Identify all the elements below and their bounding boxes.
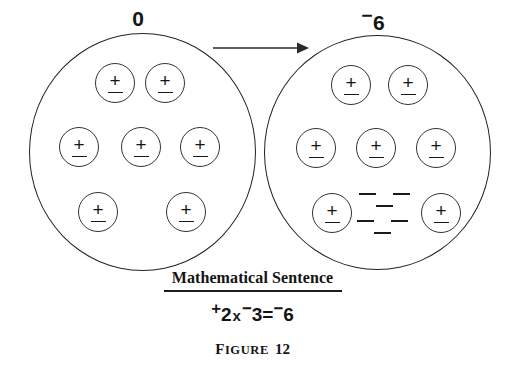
- token-plus-minus: +: [166, 192, 206, 232]
- right-set-label-value: 6: [373, 11, 385, 34]
- loose-minus-sign: [374, 232, 391, 234]
- figure-caption-word-first: F: [215, 341, 225, 357]
- loose-minus-sign: [391, 220, 408, 222]
- left-set-label-value: 0: [132, 7, 144, 30]
- token-plus-glyph: +: [345, 77, 356, 88]
- token-plus-glyph: +: [73, 139, 84, 150]
- token-minus-bar: [344, 94, 359, 96]
- token-plus-minus: +: [180, 127, 220, 167]
- token-plus-glyph: +: [402, 77, 413, 88]
- equation-expression: +2x−3=−6: [0, 297, 505, 329]
- figure-caption: FIGURE12: [0, 341, 505, 358]
- token-minus-bar: [429, 157, 444, 159]
- equation-term2-sign: −: [242, 299, 252, 318]
- token-minus-bar: [434, 222, 449, 224]
- right-set-label-sign: −: [361, 5, 372, 26]
- token-plus-minus: +: [331, 65, 371, 105]
- equation-term1-value: 2: [221, 303, 232, 324]
- token-plus-glyph: +: [326, 205, 337, 216]
- token-plus-minus: +: [145, 63, 185, 103]
- equation-result-sign: −: [273, 299, 283, 318]
- figure-12-illustration: 0 −6 + + + + + + +: [0, 0, 505, 373]
- figure-caption-word-rest: IGURE: [225, 343, 269, 357]
- sentence-underline-rule: [164, 290, 342, 292]
- loose-minus-sign: [357, 220, 374, 222]
- token-minus-bar: [158, 92, 173, 94]
- token-minus-bar: [369, 157, 384, 159]
- figure-caption-number: 12: [275, 341, 290, 357]
- token-minus-bar: [309, 157, 324, 159]
- token-plus-glyph: +: [435, 205, 446, 216]
- token-plus-glyph: +: [159, 75, 170, 86]
- token-plus-glyph: +: [194, 139, 205, 150]
- token-minus-bar: [134, 156, 149, 158]
- loose-minus-sign: [359, 193, 376, 195]
- equation-result-value: 6: [283, 303, 294, 324]
- token-plus-minus: +: [296, 128, 336, 168]
- left-set-label: 0: [108, 8, 168, 29]
- equation-term2-value: 3: [252, 303, 263, 324]
- token-plus-minus: +: [59, 127, 99, 167]
- equation-term1-sign: +: [211, 299, 221, 318]
- mathematical-sentence-block: Mathematical Sentence +2x−3=−6: [0, 268, 505, 328]
- equation-equals-sign: =: [262, 303, 273, 324]
- equation-operator: x: [232, 307, 242, 324]
- token-minus-bar: [91, 221, 106, 223]
- token-plus-minus: +: [78, 192, 118, 232]
- token-plus-glyph: +: [109, 75, 120, 86]
- token-plus-glyph: +: [430, 140, 441, 151]
- token-plus-minus: +: [421, 193, 461, 233]
- token-plus-minus: +: [95, 63, 135, 103]
- token-minus-bar: [193, 156, 208, 158]
- token-minus-bar: [325, 222, 340, 224]
- loose-minus-sign: [393, 193, 410, 195]
- token-minus-bar: [401, 94, 416, 96]
- loose-minus-cluster: [356, 217, 414, 243]
- loose-minus-cluster: [358, 190, 416, 216]
- token-plus-glyph: +: [180, 204, 191, 215]
- token-plus-minus: +: [356, 128, 396, 168]
- token-minus-bar: [108, 92, 123, 94]
- token-minus-bar: [179, 221, 194, 223]
- token-plus-glyph: +: [135, 139, 146, 150]
- right-set-label: −6: [343, 6, 403, 33]
- mathematical-sentence-title: Mathematical Sentence: [0, 268, 505, 288]
- token-plus-minus: +: [416, 128, 456, 168]
- token-plus-minus: +: [312, 193, 352, 233]
- token-plus-glyph: +: [370, 140, 381, 151]
- token-minus-bar: [72, 156, 87, 158]
- token-plus-minus: +: [121, 127, 161, 167]
- token-plus-glyph: +: [310, 140, 321, 151]
- token-plus-minus: +: [388, 65, 428, 105]
- transform-arrow-icon: [213, 41, 310, 55]
- loose-minus-sign: [376, 205, 393, 207]
- token-plus-glyph: +: [92, 204, 103, 215]
